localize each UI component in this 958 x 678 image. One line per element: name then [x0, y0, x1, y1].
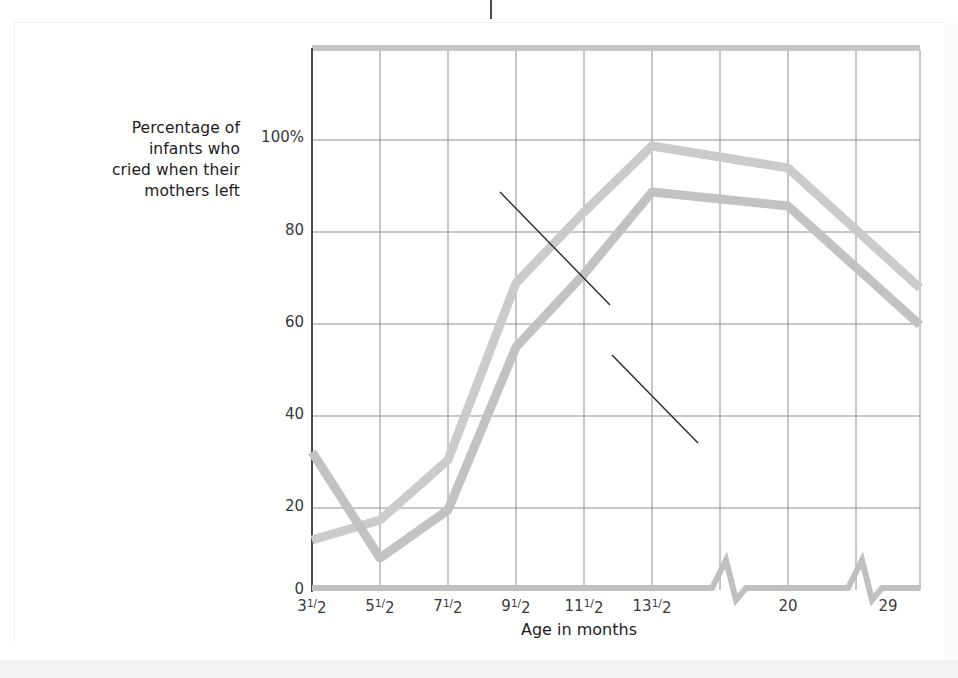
plot-background	[312, 50, 920, 590]
chart-plot	[0, 0, 958, 678]
plot-top-band	[312, 45, 920, 51]
page-canvas: Percentage of infants who cried when the…	[0, 0, 958, 678]
